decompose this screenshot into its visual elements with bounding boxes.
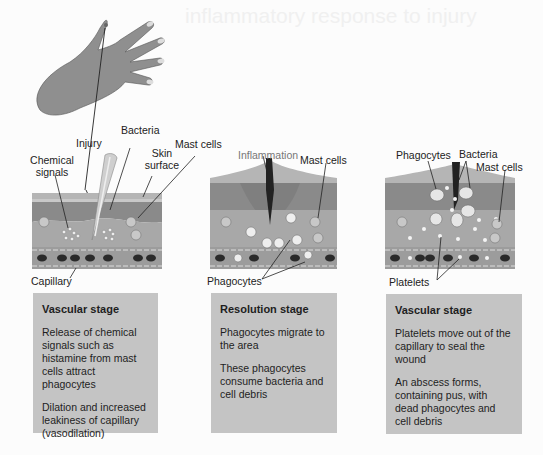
stage-box-vascular-2: Vascular stage Platelets move out of the… — [386, 294, 522, 434]
mast-cell — [131, 230, 141, 240]
label-mast-cells: Mast cells — [175, 138, 222, 150]
stage-paragraph: Phagocytes migrate to the area — [220, 326, 328, 352]
stage-box-vascular-1: Vascular stage Release of chemical signa… — [33, 293, 158, 433]
label-phagocytes: Phagocytes — [207, 275, 262, 287]
stage-paragraph: Platelets move out of the capillary to s… — [395, 327, 513, 366]
label-skin-surface: Skin surface — [142, 147, 182, 171]
stage-paragraph: An abscess forms, containing pus, with d… — [395, 376, 513, 428]
label-phagocytes: Phagocytes — [396, 149, 451, 161]
stage-title: Vascular stage — [42, 303, 149, 316]
stage-paragraph: These phagocytes consume bacteria and ce… — [220, 362, 328, 401]
label-chemical-signals: Chemical signals — [27, 154, 77, 178]
mast-cell — [39, 217, 49, 227]
mast-cell — [126, 217, 136, 227]
label-bacteria: Bacteria — [121, 124, 160, 136]
stage-box-resolution: Resolution stage Phagocytes migrate to t… — [211, 293, 337, 433]
stage-title: Resolution stage — [220, 303, 328, 316]
label-bacteria: Bacteria — [459, 148, 498, 160]
label-mast-cells: Mast cells — [300, 154, 347, 166]
stage-title: Vascular stage — [395, 304, 513, 317]
hand-illustration — [37, 20, 165, 115]
stage-paragraph: Release of chemical signals such as hist… — [42, 326, 149, 391]
label-platelets: Platelets — [389, 276, 429, 288]
label-injury: Injury — [76, 137, 102, 149]
panel-2-tissue — [210, 158, 337, 269]
injury-site-icon — [104, 23, 108, 27]
stage-paragraph: Dilation and increased leakiness of capi… — [42, 401, 149, 440]
label-capillary: Capillary — [31, 275, 72, 287]
label-mast-cells: Mast cells — [476, 161, 523, 173]
panel-3-tissue — [385, 162, 515, 269]
label-inflammation: Inflammation — [238, 149, 298, 161]
